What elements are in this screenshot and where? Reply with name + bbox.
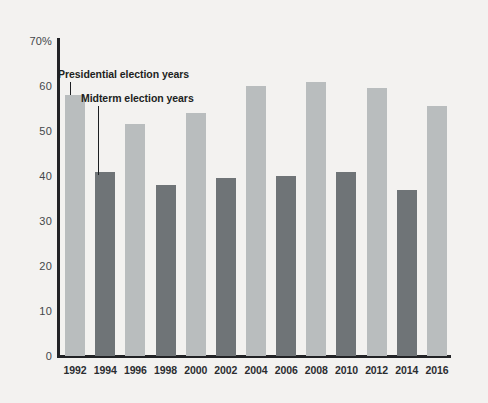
bar-2012: [367, 88, 387, 356]
bar-chart: 010203040506070% 19921994199619982000200…: [0, 0, 488, 403]
midterm-leader-line: [98, 106, 99, 175]
bar-1998: [156, 185, 176, 356]
bar-series-group: [60, 0, 452, 403]
bar-1996: [125, 124, 145, 356]
x-axis-tick-label-2016: 2016: [417, 364, 457, 376]
x-axis-labels: 1992199419961998200020022004200620082010…: [60, 364, 452, 384]
y-axis-tick-label: 0: [6, 350, 52, 362]
bar-2008: [306, 82, 326, 357]
bar-1992: [65, 95, 85, 356]
bar-2006: [276, 176, 296, 356]
bar-1994: [95, 172, 115, 357]
presidential-annotation-label: Presidential election years: [58, 68, 189, 80]
bar-2002: [216, 178, 236, 356]
y-axis-tick-label: 60: [6, 80, 52, 92]
y-axis-tick-label: 10: [6, 305, 52, 317]
y-axis-labels: 010203040506070%: [0, 0, 52, 403]
bar-2000: [186, 113, 206, 356]
bar-2010: [336, 172, 356, 357]
y-axis-tick-label: 50: [6, 125, 52, 137]
y-axis-tick-label: 40: [6, 170, 52, 182]
midterm-annotation-label: Midterm election years: [81, 92, 194, 104]
y-axis-tick-label: 30: [6, 215, 52, 227]
bar-2004: [246, 86, 266, 356]
y-axis-tick-label: 70%: [6, 35, 52, 47]
bar-2014: [397, 190, 417, 357]
presidential-leader-line: [70, 82, 71, 95]
y-axis-tick-label: 20: [6, 260, 52, 272]
bar-2016: [427, 106, 447, 356]
